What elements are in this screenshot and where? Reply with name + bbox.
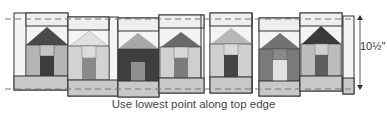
- house-row-diagram: [0, 0, 387, 100]
- house-block-6: [259, 18, 300, 96]
- house-block-5: [210, 13, 252, 93]
- side-strip: [343, 16, 354, 94]
- house-block-4: [159, 15, 204, 93]
- house-block-7: [300, 13, 342, 91]
- dimension-arrow: [357, 15, 363, 90]
- house-block-3: [118, 18, 159, 97]
- caption: Use lowest point along top edge: [0, 98, 387, 110]
- house-block-1: [14, 13, 68, 90]
- dimension-label: 10½": [360, 40, 385, 52]
- house-block-2: [68, 17, 118, 96]
